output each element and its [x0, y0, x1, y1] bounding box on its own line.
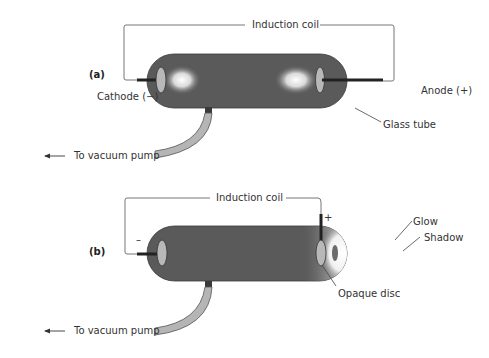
glow-leader — [395, 221, 412, 240]
cathode-lead — [137, 79, 157, 82]
shadow-label: Shadow — [424, 232, 463, 243]
anode-glow — [274, 65, 318, 95]
panel-b: (b) Induction coil – + Opaque disc Glow … — [44, 192, 463, 336]
panel-b-label: (b) — [89, 246, 105, 257]
arrow-head-b — [44, 329, 50, 334]
anode-lead — [322, 79, 383, 82]
shadow-spot — [332, 245, 338, 261]
minus-sign: – — [136, 234, 141, 245]
vacuum-pump-label-b: To vacuum pump — [73, 325, 160, 336]
crookes-tube-diagram: (a) Induction coil Cathode (−) Anode (+)… — [0, 0, 489, 358]
induction-coil-label-a: Induction coil — [252, 19, 319, 30]
cathode-glow — [163, 65, 201, 95]
opaque-disc — [316, 240, 326, 266]
glass-tube-label: Glass tube — [383, 119, 436, 130]
cathode-lead-b — [137, 253, 159, 256]
cathode-electrode-b — [157, 240, 167, 266]
anode-label: Anode (+) — [421, 85, 472, 96]
cathode-label: Cathode (−) — [97, 91, 158, 102]
panel-a-label: (a) — [89, 69, 105, 80]
cathode-electrode — [156, 67, 166, 93]
opaque-disc-label: Opaque disc — [338, 288, 400, 299]
glow-label: Glow — [413, 216, 438, 227]
vacuum-pump-label-a: To vacuum pump — [73, 150, 160, 161]
shadow-leader — [403, 237, 420, 251]
anode-lead-b — [320, 214, 323, 244]
induction-coil-label-b: Induction coil — [216, 192, 283, 203]
plus-sign: + — [324, 212, 332, 223]
arrow-head-a — [44, 154, 50, 159]
panel-a: (a) Induction coil Cathode (−) Anode (+)… — [44, 19, 472, 161]
vacuum-pipe-a — [155, 113, 212, 158]
glass-tube-leader — [355, 108, 381, 122]
vacuum-pipe-b — [155, 287, 212, 335]
